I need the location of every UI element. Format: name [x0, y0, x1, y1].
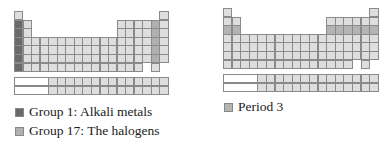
legend-group1-label: Group 1: Alkali metals	[29, 104, 152, 120]
legend-group17: Group 17: The halogens	[15, 123, 160, 139]
element-cell	[343, 60, 352, 69]
f-block-cell	[369, 83, 378, 92]
group17-swatch-icon	[15, 127, 24, 136]
element-cell	[369, 51, 378, 60]
group1-swatch-icon	[15, 108, 24, 117]
legend-period3: Period 3	[224, 99, 283, 115]
f-block-blank	[223, 83, 258, 92]
element-cell	[134, 63, 143, 72]
element-cell	[159, 54, 168, 63]
legend-group17-label: Group 17: The halogens	[29, 123, 160, 139]
f-block-cell	[159, 86, 168, 95]
legend-group1: Group 1: Alkali metals	[15, 104, 152, 120]
f-block-blank	[14, 86, 49, 95]
period3-swatch-icon	[224, 103, 233, 112]
legend-period3-label: Period 3	[238, 99, 283, 115]
element-cell	[361, 60, 370, 69]
element-cell	[151, 63, 160, 72]
